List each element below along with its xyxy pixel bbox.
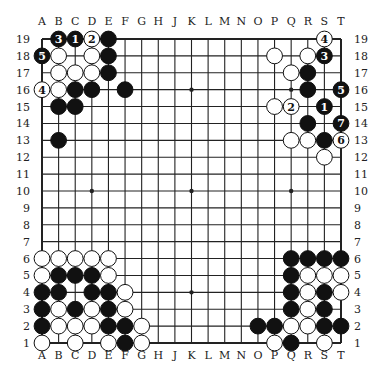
column-label: E: [104, 15, 112, 28]
row-label: 16: [16, 84, 30, 97]
black-stone: [283, 335, 299, 351]
column-label: M: [219, 15, 230, 28]
white-stone: [267, 99, 283, 115]
black-stone: [84, 82, 100, 98]
black-stone: [51, 99, 67, 115]
column-label: H: [153, 349, 163, 362]
column-label: L: [204, 349, 212, 362]
column-label: F: [121, 15, 129, 28]
star-point: [289, 87, 293, 91]
white-stone: [67, 318, 83, 334]
white-stone: [84, 251, 100, 267]
row-label: 15: [16, 101, 30, 114]
black-stone: 1: [316, 99, 332, 115]
white-stone: [316, 335, 332, 351]
row-label: 8: [354, 219, 361, 232]
black-stone: [67, 82, 83, 98]
column-label: O: [253, 349, 262, 362]
black-stone: [117, 318, 133, 334]
column-label: G: [137, 15, 146, 28]
white-stone: [134, 335, 150, 351]
white-stone: [67, 251, 83, 267]
row-label: 15: [354, 101, 368, 114]
column-label: K: [187, 15, 196, 28]
white-stone: 2: [84, 31, 100, 47]
row-label: 5: [354, 269, 361, 282]
black-stone: [300, 116, 316, 132]
white-stone: [67, 335, 83, 351]
row-label: 13: [354, 134, 368, 147]
white-stone: 6: [333, 132, 349, 148]
row-label: 3: [354, 303, 361, 316]
row-label: 18: [16, 50, 30, 63]
black-stone: 7: [333, 116, 349, 132]
row-label: 13: [16, 134, 30, 147]
black-stone: [67, 99, 83, 115]
white-stone: [34, 251, 50, 267]
move-number: 1: [71, 33, 79, 46]
white-stone: [134, 318, 150, 334]
row-label: 2: [23, 320, 30, 333]
black-stone: [84, 284, 100, 300]
row-label: 14: [354, 117, 368, 130]
row-label: 10: [354, 185, 368, 198]
black-stone: 1: [67, 31, 83, 47]
white-stone: [51, 65, 67, 81]
row-label: 3: [23, 303, 30, 316]
black-stone: [101, 48, 117, 64]
row-label: 1: [354, 337, 361, 350]
row-label: 18: [354, 50, 368, 63]
black-stone: [250, 318, 266, 334]
white-stone: 4: [316, 31, 332, 47]
white-stone: [51, 318, 67, 334]
row-label: 6: [354, 253, 361, 266]
white-stone: [84, 318, 100, 334]
black-stone: 3: [51, 31, 67, 47]
white-stone: [117, 301, 133, 317]
row-label: 9: [354, 202, 361, 215]
column-label: Q: [287, 15, 296, 28]
row-label: 5: [23, 269, 30, 282]
row-label: 17: [16, 67, 30, 80]
black-stone: [283, 268, 299, 284]
white-stone: [84, 48, 100, 64]
black-stone: 5: [333, 82, 349, 98]
column-label: J: [172, 349, 177, 362]
row-label: 1: [23, 337, 30, 350]
white-stone: [300, 318, 316, 334]
row-label: 14: [16, 117, 30, 130]
row-label: 2: [354, 320, 361, 333]
black-stone: [333, 251, 349, 267]
black-stone: [101, 318, 117, 334]
black-stone: [117, 82, 133, 98]
go-board: AABBCCDDEEFFGGHHJJKKLLMMNNOOPPQQRRSSTT19…: [0, 0, 386, 382]
white-stone: [101, 335, 117, 351]
white-stone: [267, 48, 283, 64]
star-point: [289, 189, 293, 193]
go-board-diagram: AABBCCDDEEFFGGHHJJKKLLMMNNOOPPQQRRSSTT19…: [0, 0, 386, 382]
white-stone: [300, 132, 316, 148]
white-stone: [84, 65, 100, 81]
row-label: 19: [354, 33, 368, 46]
white-stone: [101, 268, 117, 284]
move-number: 5: [337, 84, 345, 97]
black-stone: [51, 284, 67, 300]
row-label: 10: [16, 185, 30, 198]
white-stone: [51, 251, 67, 267]
white-stone: [316, 149, 332, 165]
row-label: 12: [354, 151, 368, 164]
white-stone: [51, 301, 67, 317]
column-label: J: [172, 15, 177, 28]
column-label: B: [55, 15, 63, 28]
row-label: 7: [23, 236, 30, 249]
black-stone: [117, 335, 133, 351]
move-number: 3: [321, 50, 329, 63]
column-label: N: [237, 15, 247, 28]
column-label: K: [187, 349, 196, 362]
row-label: 4: [23, 286, 30, 299]
row-label: 12: [16, 151, 30, 164]
row-label: 17: [354, 67, 368, 80]
column-label: R: [304, 349, 313, 362]
black-stone: [316, 301, 332, 317]
white-stone: [84, 301, 100, 317]
